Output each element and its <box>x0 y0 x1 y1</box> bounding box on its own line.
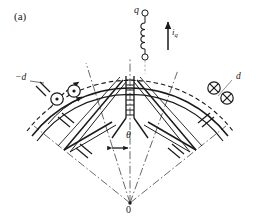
coil-winding-symbol <box>141 23 145 49</box>
current-label-sub-q: q <box>175 31 178 38</box>
current-label-iq: iq <box>172 28 178 38</box>
angle-label-theta: θ <box>126 130 131 140</box>
q-axis-winding-group <box>141 10 168 74</box>
origin-label: 0 <box>126 205 131 215</box>
circle-dot-icon-2 <box>68 85 80 97</box>
terminal-label-q: q <box>134 5 139 15</box>
circle-plus-icon-1 <box>208 82 220 94</box>
coil-side-right-outer <box>137 80 196 150</box>
circle-plus-icon-2 <box>221 92 233 104</box>
circle-dot-icon-1 <box>51 93 63 105</box>
leader-line-minus-d <box>30 81 44 83</box>
coil-end-right-lower-inner <box>144 125 190 152</box>
figure-panel-a: (a) q iq −d d θ 0 <box>0 0 260 221</box>
panel-label: (a) <box>14 11 26 22</box>
coil-end-left-lower <box>64 122 112 150</box>
coil-end-right-lower <box>148 122 196 150</box>
coil-end-left-lower-inner <box>70 125 116 152</box>
conductors-out-of-page <box>51 85 80 105</box>
terminal-circle-bottom <box>142 54 148 60</box>
terminal-circle-top <box>142 10 148 16</box>
diagram-canvas <box>0 0 260 221</box>
slot-taper-left <box>112 118 126 138</box>
slot-taper-right <box>134 118 148 138</box>
axis-label-d: d <box>236 72 241 82</box>
axis-label-minus-d: −d <box>15 73 26 83</box>
